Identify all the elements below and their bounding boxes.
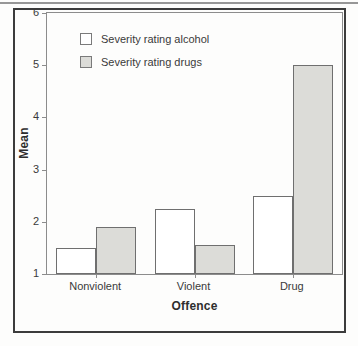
- bar-alcohol: [253, 196, 293, 274]
- category-label: Violent: [149, 280, 239, 292]
- y-axis-title: Mean: [17, 127, 31, 158]
- y-tick-label: 1: [15, 267, 39, 280]
- y-tick-label: 2: [15, 215, 39, 228]
- figure-page: Mean Severity rating alcohol Severity ra…: [0, 0, 358, 346]
- y-tick-label: 3: [15, 163, 39, 176]
- x-axis-title: Offence: [46, 299, 343, 313]
- bar-alcohol: [155, 209, 195, 274]
- legend: Severity rating alcohol Severity rating …: [80, 33, 209, 79]
- legend-item-drugs: Severity rating drugs: [80, 56, 209, 68]
- y-tick: [42, 222, 47, 223]
- legend-item-alcohol: Severity rating alcohol: [80, 33, 209, 45]
- y-tick-label: 4: [15, 110, 39, 123]
- top-rule-divider: [0, 2, 358, 4]
- bar-drugs: [195, 245, 235, 274]
- bar-alcohol: [56, 248, 96, 274]
- legend-swatch-alcohol: [80, 33, 92, 45]
- legend-label-alcohol: Severity rating alcohol: [101, 33, 209, 45]
- legend-label-drugs: Severity rating drugs: [101, 56, 202, 68]
- legend-swatch-drugs: [80, 56, 92, 68]
- y-tick: [42, 13, 47, 14]
- bar-drugs: [293, 65, 333, 274]
- category-label: Drug: [247, 280, 337, 292]
- y-tick: [42, 65, 47, 66]
- y-tick-label: 5: [15, 58, 39, 71]
- y-tick: [42, 117, 47, 118]
- category-label: Nonviolent: [50, 280, 140, 292]
- y-tick: [42, 170, 47, 171]
- x-tick: [195, 274, 196, 278]
- x-tick: [96, 274, 97, 278]
- y-tick: [42, 274, 47, 275]
- x-tick: [293, 274, 294, 278]
- y-tick-label: 6: [15, 6, 39, 19]
- bar-drugs: [96, 227, 136, 274]
